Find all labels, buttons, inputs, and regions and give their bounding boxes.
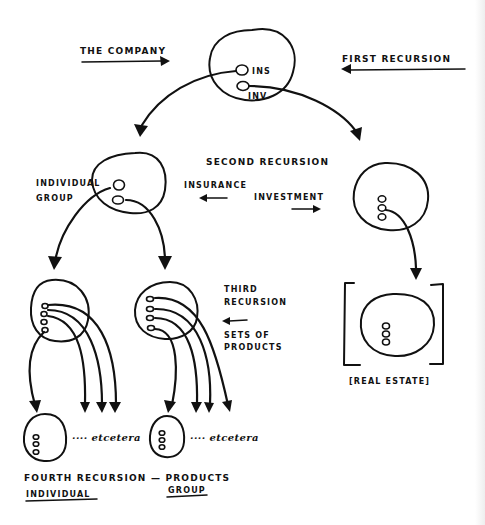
label-etcetera-group: ···· etcetera bbox=[190, 432, 259, 443]
arrow-to-group-products bbox=[126, 200, 172, 270]
label-second-recursion: SECOND RECURSION bbox=[206, 157, 329, 167]
label-real-estate: [REAL ESTATE] bbox=[349, 377, 430, 386]
investment-node bbox=[354, 163, 429, 230]
label-group-bottom: GROUP bbox=[168, 486, 206, 495]
arrow-to-insurance bbox=[134, 71, 236, 137]
ins-dot bbox=[236, 65, 248, 75]
group-product-arrows bbox=[155, 298, 232, 413]
label-ins: INS bbox=[252, 67, 271, 76]
label-investment: INVESTMENT bbox=[254, 193, 324, 202]
page-edge-shadow bbox=[475, 0, 485, 525]
label-individual: INDIVIDUAL bbox=[36, 179, 101, 188]
inv-dot bbox=[237, 82, 249, 91]
arrow-to-real-estate bbox=[386, 210, 422, 280]
label-group: GROUP bbox=[36, 194, 74, 203]
label-insurance: INSURANCE bbox=[184, 181, 247, 190]
arrow-right-small-icon bbox=[292, 205, 321, 213]
real-estate-node bbox=[344, 283, 443, 365]
arrow-left-third-icon bbox=[222, 317, 247, 325]
label-fourth-recursion: FOURTH RECURSION — PRODUCTS bbox=[24, 473, 230, 483]
individual-product-arrows bbox=[29, 305, 121, 413]
label-third-recursion-2: RECURSION bbox=[224, 298, 287, 307]
label-sets-of-products-2: PRODUCTS bbox=[224, 343, 283, 352]
label-first-recursion: FIRST RECURSION bbox=[342, 54, 451, 64]
label-inv: INV bbox=[248, 92, 267, 101]
arrow-left-icon bbox=[341, 64, 465, 74]
label-third-recursion-1: THIRD bbox=[224, 285, 258, 294]
individual-dot bbox=[114, 180, 125, 190]
label-sets-of-products-1: SETS OF bbox=[224, 331, 270, 340]
label-individual-bottom: INDIVIDUAL bbox=[26, 490, 91, 499]
underline-individual bbox=[26, 499, 97, 501]
arrow-right-icon bbox=[82, 56, 170, 66]
group-product-node bbox=[150, 416, 184, 457]
individual-product-node bbox=[24, 414, 66, 461]
group-dot bbox=[113, 196, 124, 204]
label-etcetera-individual: ···· etcetera bbox=[72, 432, 141, 443]
label-the-company: THE COMPANY bbox=[80, 46, 166, 56]
underline-group bbox=[167, 495, 207, 497]
insurance-node bbox=[92, 153, 166, 214]
arrow-left-small-icon bbox=[199, 194, 227, 202]
recursion-diagram: THE COMPANY FIRST RECURSION INS INV INDI… bbox=[0, 0, 485, 525]
